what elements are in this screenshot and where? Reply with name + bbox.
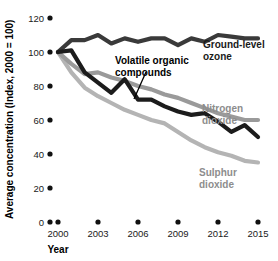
ozone-label-line-2: ozone (203, 51, 232, 62)
y-tick-dot-60 (47, 117, 52, 122)
air-quality-line-chart: Average concentration (Index, 2000 = 100… (0, 0, 278, 261)
x-tick-dot-2012 (215, 219, 220, 224)
label-nitrogen-dioxide: Nitrogen dioxide (202, 103, 243, 126)
so2-label-line-2: dioxide (199, 179, 234, 190)
x-tick-label-2009: 2009 (167, 228, 188, 239)
x-tick-dot-2006 (135, 219, 140, 224)
y-tick-label-100: 100 (28, 47, 44, 58)
x-tick-label-2015: 2015 (247, 228, 268, 239)
x-tick-label-2003: 2003 (87, 228, 108, 239)
y-tick-dot-80 (47, 83, 52, 88)
y-tick-dot-100 (47, 49, 52, 54)
y-tick-dot-0 (47, 219, 52, 224)
voc-label-line-2: compounds (115, 67, 172, 78)
voc-label-line-1: Volatile organic (115, 55, 189, 66)
y-tick-label-80: 80 (33, 81, 44, 92)
y-tick-label-40: 40 (33, 149, 44, 160)
y-tick-dot-120 (47, 15, 52, 20)
chart-page: Average concentration (Index, 2000 = 100… (0, 0, 278, 261)
y-tick-dot-20 (47, 185, 52, 190)
x-tick-dot-2015 (255, 219, 260, 224)
label-sulphur-dioxide: Sulphur dioxide (199, 167, 237, 190)
y-tick-label-120: 120 (28, 13, 44, 24)
x-tick-label-2012: 2012 (207, 228, 228, 239)
x-tick-label-2000: 2000 (47, 228, 68, 239)
y-tick-label-60: 60 (33, 115, 44, 126)
x-tick-dot-2003 (95, 219, 100, 224)
y-tick-label-20: 20 (33, 183, 44, 194)
no2-label-line-2: dioxide (202, 115, 237, 126)
x-tick-dot-2000 (55, 219, 60, 224)
y-tick-label-0: 0 (39, 217, 44, 228)
x-tick-dot-2009 (175, 219, 180, 224)
no2-label-line-1: Nitrogen (202, 103, 243, 114)
so2-label-line-1: Sulphur (199, 167, 237, 178)
y-axis-title: Average concentration (Index, 2000 = 100… (4, 20, 15, 219)
x-tick-label-2006: 2006 (127, 228, 148, 239)
y-tick-dot-40 (47, 151, 52, 156)
x-axis-title: Year (47, 244, 68, 255)
ozone-label-line-1: Ground-level (203, 39, 265, 50)
